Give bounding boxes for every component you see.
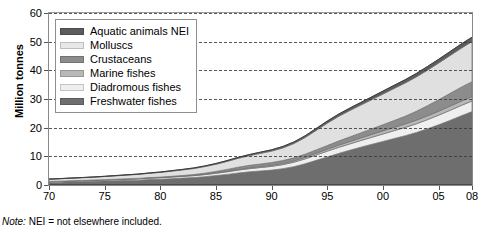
footnote-text: NEI = not elsewhere included. [26,216,162,227]
x-axis-tick-mark [105,186,106,190]
gridline [49,13,472,14]
legend-item: Diadromous fishes [60,80,189,94]
footnote: Note: NEI = not elsewhere included. [2,216,162,227]
x-axis-line [49,184,472,185]
y-axis-tick-label: 30 [16,93,42,105]
x-axis-tick-label: 85 [204,190,228,202]
x-axis-tick-label: 75 [93,190,117,202]
legend-item-label: Freshwater fishes [90,96,177,107]
legend-item-label: Diadromous fishes [90,82,181,93]
x-axis-tick-mark [383,186,384,190]
note-separator [0,212,474,213]
x-axis-tick-mark [160,186,161,190]
legend-swatch-icon [60,28,84,35]
x-axis-tick-label: 00 [371,190,395,202]
legend-item: Marine fishes [60,66,189,80]
x-axis-tick-label: 95 [315,190,339,202]
legend-item: Crustaceans [60,52,189,66]
legend-swatch-icon [60,42,84,49]
y-axis-tick-label: 20 [16,122,42,134]
x-axis-tick-label: 08 [460,190,483,202]
legend-swatch-icon [60,56,84,63]
x-axis-tick-mark [327,186,328,190]
gridline [49,128,472,129]
x-axis-tick-label: 05 [427,190,451,202]
x-axis-tick-mark [439,186,440,190]
legend-item-label: Aquatic animals NEI [90,26,189,37]
footnote-prefix: Note: [2,216,26,227]
legend-item-label: Marine fishes [90,68,155,79]
y-axis-tick-label: 50 [16,36,42,48]
x-axis-tick-label: 90 [260,190,284,202]
legend-swatch-icon [60,84,84,91]
gridline [49,156,472,157]
x-axis-tick-mark [216,186,217,190]
x-axis-tick-label: 80 [148,190,172,202]
x-axis-tick-label: 70 [37,190,61,202]
legend-item: Aquatic animals NEI [60,24,189,38]
x-axis-tick-mark [272,186,273,190]
x-axis-tick-mark [472,186,473,190]
y-axis-tick-label: 40 [16,64,42,76]
y-axis-title: Million tonnes [13,36,25,126]
x-axis-tick-mark [49,186,50,190]
y-axis-tick-label: 10 [16,150,42,162]
legend-item: Molluscs [60,38,189,52]
legend-item: Freshwater fishes [60,94,189,108]
legend: Aquatic animals NEIMolluscsCrustaceansMa… [55,19,197,113]
legend-item-label: Molluscs [90,40,133,51]
y-axis-tick-label: 60 [16,7,42,19]
legend-swatch-icon [60,70,84,77]
legend-swatch-icon [60,98,84,105]
legend-item-label: Crustaceans [90,54,152,65]
